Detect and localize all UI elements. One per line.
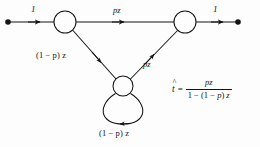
signal-flow-graph xyxy=(0,0,260,147)
edge-label-top: pz xyxy=(113,6,121,15)
formula-fraction: pz 1 − (1 − p) z xyxy=(186,78,232,101)
formula-equals-sign: = xyxy=(176,84,186,94)
node-right xyxy=(174,11,196,33)
edge-label-self-loop: (1 − p) z xyxy=(99,129,129,138)
formula-hat-accent: ^ xyxy=(173,79,177,87)
node-bottom xyxy=(113,76,133,96)
edge-right-diagonal xyxy=(131,30,179,79)
edge-label-output: 1 xyxy=(213,5,218,14)
edge-self-loop xyxy=(103,94,143,125)
formula-denominator-tail: z xyxy=(226,90,229,100)
formula-lhs-symbol: ^t xyxy=(172,84,176,94)
figure-canvas: 1 pz (1 − p) z pz (1 − p) z 1 ^t = pz 1 … xyxy=(0,0,260,147)
edge-label-input: 1 xyxy=(31,5,36,14)
formula-denominator-prefix: 1 − (1 − xyxy=(188,90,217,100)
formula-denominator: 1 − (1 − p) z xyxy=(186,90,232,101)
node-left xyxy=(54,11,76,33)
edge-left-diagonal-arrowhead xyxy=(92,52,101,63)
formula-numerator: pz xyxy=(201,78,217,89)
transfer-function-formula: ^t = pz 1 − (1 − p) z xyxy=(172,78,232,101)
edge-label-right-diagonal: pz xyxy=(143,60,151,69)
edge-label-left-diagonal: (1 − p) z xyxy=(36,51,66,60)
